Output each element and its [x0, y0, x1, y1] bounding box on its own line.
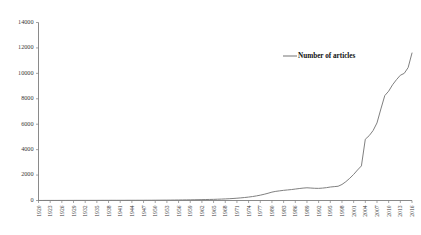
y-axis-tick-label: 4000 — [21, 145, 33, 152]
x-axis-tick-label: 1998 — [339, 205, 345, 216]
x-axis-tick-label: 1965 — [211, 205, 217, 216]
y-axis: 02000400060008000100001200014000 — [18, 18, 38, 203]
y-axis-tick-label: 12000 — [18, 43, 33, 50]
x-axis-tick-label: 1995 — [327, 205, 333, 216]
x-axis-tick-label: 1992 — [316, 205, 322, 216]
y-axis-tick-label: 8000 — [21, 94, 33, 101]
line-chart: 02000400060008000100001200014000 1920192… — [0, 0, 421, 235]
x-axis-tick-label: 1959 — [187, 205, 193, 216]
x-axis-tick-label: 1983 — [281, 205, 287, 216]
chart-container: 02000400060008000100001200014000 1920192… — [0, 0, 421, 235]
x-axis-tick-label: 1962 — [199, 205, 205, 216]
x-axis-tick-label: 1986 — [292, 205, 298, 216]
x-axis-tick-label: 2016 — [409, 205, 415, 216]
y-axis-tick-label: 14000 — [18, 18, 33, 25]
y-axis-tick-label: 2000 — [21, 170, 33, 177]
x-axis-tick-label: 1950 — [152, 205, 158, 216]
x-axis-tick-label: 1923 — [47, 205, 53, 216]
x-axis-tick-label: 1935 — [94, 205, 100, 216]
x-axis-tick-label: 2007 — [374, 205, 380, 216]
chart-legend: Number of articles — [283, 52, 356, 60]
y-axis-tick-label: 10000 — [18, 69, 33, 76]
x-axis-tick-label: 1920 — [36, 205, 42, 216]
x-axis-tick-label: 1944 — [129, 205, 135, 216]
x-axis-tick-label: 1974 — [246, 205, 252, 216]
x-axis-tick-label: 1956 — [176, 205, 182, 216]
x-axis-tick-label: 1938 — [106, 205, 112, 216]
x-axis-tick-label: 2010 — [386, 205, 392, 216]
x-axis-tick-label: 1941 — [117, 205, 123, 216]
x-axis-tick-label: 1971 — [234, 205, 240, 216]
y-axis-tick-label: 6000 — [21, 120, 33, 127]
legend-label: Number of articles — [298, 52, 356, 60]
y-axis-tick-label: 0 — [30, 196, 33, 203]
x-axis-tick-label: 1980 — [269, 205, 275, 216]
x-axis-tick-label: 1947 — [141, 205, 147, 216]
x-axis-tick-label: 2013 — [397, 205, 403, 216]
x-axis-tick-label: 1989 — [304, 205, 310, 216]
x-axis-tick-label: 2004 — [362, 205, 368, 216]
x-axis: 1920192319261929193219351938194119441947… — [36, 201, 416, 217]
x-axis-tick-label: 2001 — [351, 205, 357, 216]
series-number-of-articles — [39, 53, 413, 200]
x-axis-tick-label: 1953 — [164, 205, 170, 216]
x-axis-tick-label: 1977 — [257, 205, 263, 216]
x-axis-tick-label: 1926 — [59, 205, 65, 216]
x-axis-tick-label: 1929 — [71, 205, 77, 216]
x-axis-tick-label: 1932 — [82, 205, 88, 216]
x-axis-tick-label: 1968 — [222, 205, 228, 216]
series-line-number-of-articles — [39, 53, 413, 200]
